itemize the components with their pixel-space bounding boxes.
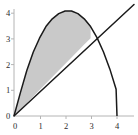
x-tick-label-2: 3 (89, 121, 93, 131)
shaded-region (14, 11, 91, 116)
chart-canvas: 1 2 3 4 1 2 3 4 0 0 (0, 0, 138, 135)
x-tick-label-3: 4 (115, 121, 120, 131)
x-tick-label-0: 1 (38, 121, 42, 131)
origin-label-x: 0 (13, 121, 17, 131)
y-tick-label-1: 1 (6, 85, 10, 95)
x-tick-label-1: 2 (64, 121, 68, 131)
origin-label-y: 0 (6, 111, 10, 121)
y-tick-label-2: 2 (6, 60, 10, 70)
y-tick-label-3: 3 (6, 34, 10, 44)
y-tick-label-4: 4 (6, 8, 11, 18)
chart-figure: 1 2 3 4 1 2 3 4 0 0 (0, 0, 138, 135)
